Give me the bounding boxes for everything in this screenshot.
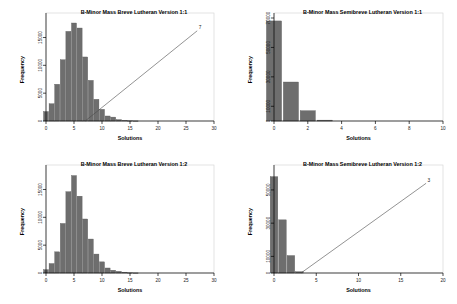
histogram-bar (60, 60, 65, 121)
x-tick-label: 15 (127, 278, 133, 283)
bar-series (266, 21, 332, 121)
annotation-label: 7 (199, 25, 202, 30)
histogram-bar (60, 223, 65, 273)
x-tick-label: 0 (273, 126, 276, 131)
x-tick-label: 20 (155, 126, 161, 131)
histogram-bar (77, 196, 82, 273)
x-tick-label: 5 (73, 126, 76, 131)
x-tick-label: 25 (183, 278, 189, 283)
histogram-bar (111, 270, 116, 273)
chart-title: B-Minor Mass Semibreve Lutheran Version … (303, 161, 422, 167)
histogram-bar (105, 116, 110, 121)
x-tick-label: 5 (73, 278, 76, 283)
y-axis-label: Frequency (19, 208, 25, 235)
histogram-bar (300, 111, 315, 121)
histogram-bar (49, 104, 54, 121)
annotation-label: 3 (428, 178, 431, 183)
x-tick-label: 25 (183, 126, 189, 131)
figure-grid: 051015202530Solutions050001000015000Freq… (0, 0, 457, 304)
x-tick-label: 0 (45, 278, 48, 283)
y-tick-label: 70000 (266, 11, 271, 24)
x-tick-label: 15 (398, 278, 404, 283)
chart-svg-top-right: 0246810Solutions010000300005000070000Fre… (228, 0, 457, 152)
x-axis-label: Solutions (346, 287, 371, 293)
y-tick-label: 10000 (38, 58, 43, 71)
histogram-bar (71, 176, 76, 273)
y-tick-label: 0 (266, 271, 271, 274)
plot-frame (46, 165, 214, 273)
x-axis-label: Solutions (118, 287, 143, 293)
histogram-bar (94, 254, 99, 273)
histogram-bar (88, 239, 93, 273)
y-tick-label: 50000 (266, 183, 271, 196)
chart-svg-top-left: 051015202530Solutions050001000015000Freq… (0, 0, 228, 152)
x-tick-label: 2 (307, 126, 310, 131)
y-tick-label: 15000 (38, 183, 43, 196)
chart-title: B-Minor Mass Breve Lutheran Version 1:2 (81, 161, 188, 167)
x-tick-label: 0 (45, 126, 48, 131)
y-axis-label: Frequency (247, 208, 253, 235)
chart-panel-top-left: 051015202530Solutions050001000015000Freq… (0, 0, 228, 152)
x-tick-label: 10 (356, 278, 362, 283)
histogram-bar (66, 31, 71, 121)
histogram-bar (111, 117, 116, 121)
chart-panel-bottom-left: 051015202530Solutions050001000015000Freq… (0, 152, 228, 304)
histogram-bar (77, 28, 82, 121)
y-tick-label: 10000 (266, 99, 271, 112)
x-tick-label: 6 (374, 126, 377, 131)
histogram-bar (55, 84, 60, 121)
histogram-bar (105, 268, 110, 273)
chart-title: B-Minor Mass Semibreve Lutheran Version … (303, 9, 422, 15)
y-tick-label: 5000 (38, 88, 43, 99)
histogram-bar (55, 252, 60, 273)
annotation-line (85, 31, 197, 121)
histogram-bar (66, 192, 71, 273)
plot-frame (46, 13, 214, 121)
histogram-bar (83, 57, 88, 121)
plot-frame (274, 13, 443, 121)
x-tick-label: 10 (99, 278, 105, 283)
y-tick-label: 15000 (38, 31, 43, 44)
y-tick-label: 0 (266, 119, 271, 122)
histogram-bar (99, 262, 104, 273)
x-tick-label: 30 (211, 278, 217, 283)
histogram-bar (99, 109, 104, 121)
x-tick-label: 15 (127, 126, 133, 131)
histogram-bar (94, 99, 99, 121)
bar-series (270, 177, 303, 273)
histogram-bar (279, 220, 287, 273)
x-axis-label: Solutions (118, 135, 143, 141)
x-tick-label: 10 (440, 126, 446, 131)
x-tick-label: 30 (211, 126, 217, 131)
y-tick-label: 30000 (266, 216, 271, 229)
bar-series (43, 176, 138, 274)
x-tick-label: 8 (408, 126, 411, 131)
chart-svg-bottom-right: 05101520Solutions0100003000050000Frequen… (228, 152, 457, 304)
x-tick-label: 20 (440, 278, 446, 283)
x-axis-label: Solutions (346, 135, 371, 141)
chart-svg-bottom-left: 051015202530Solutions050001000015000Freq… (0, 152, 228, 304)
y-axis-label: Frequency (247, 56, 253, 83)
y-tick-label: 0 (38, 119, 43, 122)
histogram-bar (83, 219, 88, 273)
y-tick-label: 0 (38, 271, 43, 274)
y-tick-label: 10000 (38, 210, 43, 223)
bar-series (43, 23, 138, 121)
chart-title: B-Minor Mass Breve Lutheran Version 1:1 (81, 9, 188, 15)
y-tick-label: 5000 (38, 240, 43, 251)
histogram-bar (287, 256, 295, 273)
x-tick-label: 4 (340, 126, 343, 131)
y-tick-label: 10000 (266, 250, 271, 263)
x-tick-label: 10 (99, 126, 105, 131)
annotation-line (301, 183, 426, 273)
x-tick-label: 20 (155, 278, 161, 283)
chart-panel-bottom-right: 05101520Solutions0100003000050000Frequen… (228, 152, 457, 304)
y-tick-label: 30000 (266, 70, 271, 83)
histogram-bar (283, 82, 298, 121)
x-tick-label: 5 (315, 278, 318, 283)
chart-panel-top-right: 0246810Solutions010000300005000070000Fre… (228, 0, 457, 152)
plot-frame (274, 165, 443, 273)
x-tick-label: 0 (273, 278, 276, 283)
histogram-bar (71, 23, 76, 121)
y-tick-label: 50000 (266, 41, 271, 54)
